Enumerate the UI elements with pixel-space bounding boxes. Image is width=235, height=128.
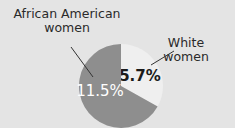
leader-line bbox=[151, 51, 174, 65]
slice-value-label: 5.7% bbox=[119, 67, 161, 85]
pie-chart: 5.7%11.5% bbox=[0, 0, 235, 128]
slice-value-label: 11.5% bbox=[76, 82, 124, 100]
